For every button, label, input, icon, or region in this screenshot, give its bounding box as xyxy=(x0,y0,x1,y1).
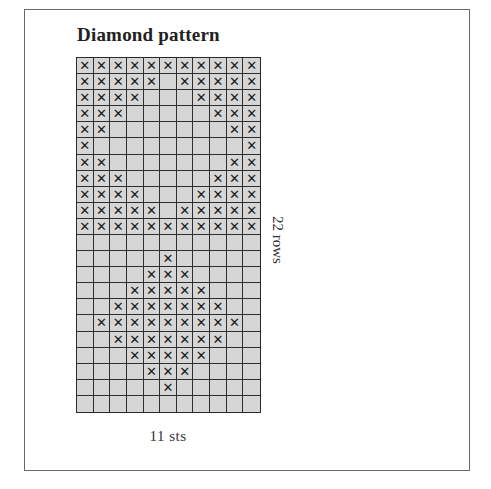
empty-stitch-cell xyxy=(77,364,94,380)
marked-stitch-cell: ✕ xyxy=(144,267,161,283)
marked-stitch-cell: ✕ xyxy=(243,106,260,122)
cross-icon: ✕ xyxy=(196,75,207,88)
cross-icon: ✕ xyxy=(146,220,157,233)
marked-stitch-cell: ✕ xyxy=(210,219,227,235)
empty-stitch-cell xyxy=(243,251,260,267)
empty-stitch-cell xyxy=(193,364,210,380)
cross-icon: ✕ xyxy=(229,156,240,169)
empty-stitch-cell xyxy=(110,396,127,412)
cross-icon: ✕ xyxy=(96,316,107,329)
cross-icon: ✕ xyxy=(196,204,207,217)
empty-stitch-cell xyxy=(110,155,127,171)
marked-stitch-cell: ✕ xyxy=(177,348,194,364)
cross-icon: ✕ xyxy=(146,316,157,329)
cross-icon: ✕ xyxy=(229,316,240,329)
empty-stitch-cell xyxy=(127,171,144,187)
cross-icon: ✕ xyxy=(212,59,223,72)
cross-icon: ✕ xyxy=(79,107,90,120)
cross-icon: ✕ xyxy=(212,333,223,346)
cross-icon: ✕ xyxy=(113,188,124,201)
cross-icon: ✕ xyxy=(146,204,157,217)
marked-stitch-cell: ✕ xyxy=(193,332,210,348)
cross-icon: ✕ xyxy=(212,316,223,329)
empty-stitch-cell xyxy=(210,251,227,267)
cross-icon: ✕ xyxy=(179,365,190,378)
cross-icon: ✕ xyxy=(163,252,174,265)
empty-stitch-cell xyxy=(77,251,94,267)
empty-stitch-cell xyxy=(193,396,210,412)
empty-stitch-cell xyxy=(144,187,161,203)
empty-stitch-cell xyxy=(144,155,161,171)
marked-stitch-cell: ✕ xyxy=(127,90,144,106)
marked-stitch-cell: ✕ xyxy=(177,74,194,90)
empty-stitch-cell xyxy=(193,235,210,251)
empty-stitch-cell xyxy=(94,267,111,283)
empty-stitch-cell xyxy=(210,364,227,380)
empty-stitch-cell xyxy=(227,267,244,283)
cross-icon: ✕ xyxy=(96,107,107,120)
cross-icon: ✕ xyxy=(96,188,107,201)
marked-stitch-cell: ✕ xyxy=(177,315,194,331)
empty-stitch-cell xyxy=(210,138,227,154)
marked-stitch-cell: ✕ xyxy=(227,155,244,171)
marked-stitch-cell: ✕ xyxy=(243,58,260,74)
empty-stitch-cell xyxy=(110,348,127,364)
empty-stitch-cell xyxy=(210,348,227,364)
marked-stitch-cell: ✕ xyxy=(127,203,144,219)
marked-stitch-cell: ✕ xyxy=(227,219,244,235)
empty-stitch-cell xyxy=(94,138,111,154)
cross-icon: ✕ xyxy=(246,139,257,152)
marked-stitch-cell: ✕ xyxy=(94,106,111,122)
marked-stitch-cell: ✕ xyxy=(77,74,94,90)
empty-stitch-cell xyxy=(210,155,227,171)
empty-stitch-cell xyxy=(77,380,94,396)
empty-stitch-cell xyxy=(243,315,260,331)
empty-stitch-cell xyxy=(193,106,210,122)
marked-stitch-cell: ✕ xyxy=(227,122,244,138)
cross-icon: ✕ xyxy=(113,59,124,72)
cross-icon: ✕ xyxy=(179,268,190,281)
cross-icon: ✕ xyxy=(146,365,157,378)
empty-stitch-cell xyxy=(144,138,161,154)
cross-icon: ✕ xyxy=(179,333,190,346)
empty-stitch-cell xyxy=(210,267,227,283)
marked-stitch-cell: ✕ xyxy=(77,155,94,171)
marked-stitch-cell: ✕ xyxy=(127,58,144,74)
cross-icon: ✕ xyxy=(246,172,257,185)
marked-stitch-cell: ✕ xyxy=(110,299,127,315)
cross-icon: ✕ xyxy=(79,188,90,201)
marked-stitch-cell: ✕ xyxy=(160,315,177,331)
empty-stitch-cell xyxy=(243,364,260,380)
empty-stitch-cell xyxy=(127,267,144,283)
empty-stitch-cell xyxy=(193,122,210,138)
empty-stitch-cell xyxy=(77,283,94,299)
marked-stitch-cell: ✕ xyxy=(144,348,161,364)
cross-icon: ✕ xyxy=(196,349,207,362)
cross-icon: ✕ xyxy=(246,107,257,120)
empty-stitch-cell xyxy=(160,171,177,187)
marked-stitch-cell: ✕ xyxy=(160,267,177,283)
cross-icon: ✕ xyxy=(229,75,240,88)
empty-stitch-cell xyxy=(177,187,194,203)
empty-stitch-cell xyxy=(227,332,244,348)
marked-stitch-cell: ✕ xyxy=(94,187,111,203)
empty-stitch-cell xyxy=(160,138,177,154)
empty-stitch-cell xyxy=(193,138,210,154)
cross-icon: ✕ xyxy=(229,220,240,233)
pattern-title: Diamond pattern xyxy=(77,24,220,46)
cross-icon: ✕ xyxy=(179,316,190,329)
empty-stitch-cell xyxy=(127,251,144,267)
empty-stitch-cell xyxy=(160,122,177,138)
empty-stitch-cell xyxy=(160,396,177,412)
empty-stitch-cell xyxy=(177,138,194,154)
empty-stitch-cell xyxy=(160,235,177,251)
marked-stitch-cell: ✕ xyxy=(77,122,94,138)
marked-stitch-cell: ✕ xyxy=(77,58,94,74)
cross-icon: ✕ xyxy=(96,172,107,185)
cross-icon: ✕ xyxy=(146,59,157,72)
empty-stitch-cell xyxy=(210,380,227,396)
empty-stitch-cell xyxy=(227,364,244,380)
cross-icon: ✕ xyxy=(146,333,157,346)
empty-stitch-cell xyxy=(193,380,210,396)
empty-stitch-cell xyxy=(227,299,244,315)
